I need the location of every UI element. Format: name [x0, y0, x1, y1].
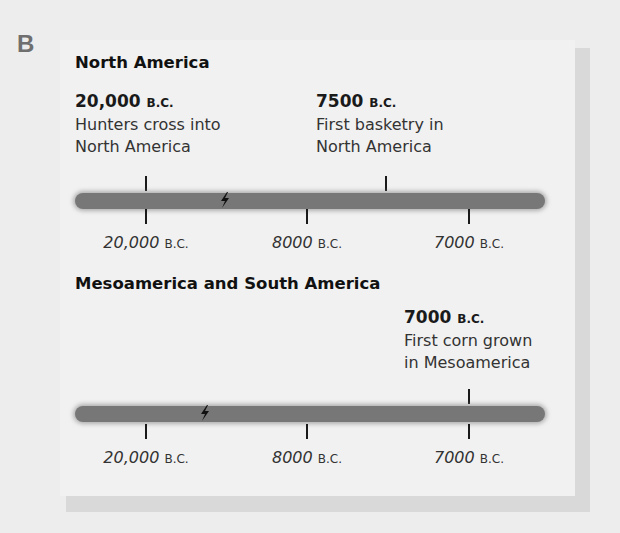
event-marker-tick: [145, 176, 147, 191]
event-date: 7500 B.C.: [316, 90, 444, 114]
axis-label-7000: 7000 B.C.: [434, 448, 504, 467]
event-description-line-2: in Mesoamerica: [404, 352, 532, 374]
event-description-line-1: First corn grown: [404, 330, 532, 352]
axis-tick: [306, 424, 308, 439]
event-first-corn: 7000 B.C. First corn grown in Mesoameric…: [404, 306, 532, 374]
region-title: Mesoamerica and South America: [75, 274, 380, 293]
section-letter: B: [17, 30, 34, 58]
event-date: 20,000 B.C.: [75, 90, 221, 114]
event-first-basketry: 7500 B.C. First basketry in North Americ…: [316, 90, 444, 158]
panel-shadow-right: [575, 48, 590, 512]
event-description-line-2: North America: [75, 136, 221, 158]
region-title: North America: [75, 53, 210, 72]
axis-label-20000: 20,000 B.C.: [103, 233, 188, 252]
event-marker-tick: [385, 176, 387, 191]
axis-break-icon: [218, 192, 232, 208]
axis-break-icon: [198, 405, 212, 421]
event-marker-tick: [468, 389, 470, 404]
axis-label-8000: 8000 B.C.: [272, 448, 342, 467]
event-description-line-1: Hunters cross into: [75, 114, 221, 136]
event-description-line-2: North America: [316, 136, 444, 158]
panel-shadow-bottom: [66, 496, 590, 512]
axis-label-7000: 7000 B.C.: [434, 233, 504, 252]
event-hunters-cross: 20,000 B.C. Hunters cross into North Ame…: [75, 90, 221, 158]
axis-tick: [306, 209, 308, 224]
axis-label-8000: 8000 B.C.: [272, 233, 342, 252]
axis-tick: [145, 424, 147, 439]
axis-tick: [468, 424, 470, 439]
event-date: 7000 B.C.: [404, 306, 532, 330]
axis-label-20000: 20,000 B.C.: [103, 448, 188, 467]
event-description-line-1: First basketry in: [316, 114, 444, 136]
axis-tick: [468, 209, 470, 224]
axis-tick: [145, 209, 147, 224]
timeline-bar: [75, 406, 545, 422]
timeline-bar: [75, 193, 545, 209]
